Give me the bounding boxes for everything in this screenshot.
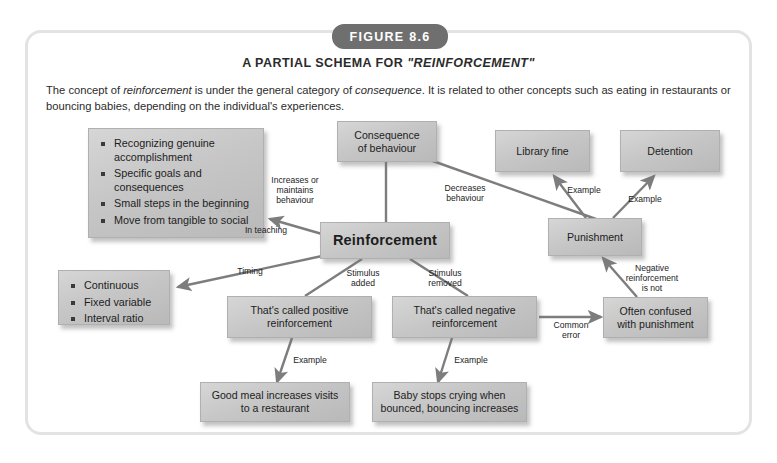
concept-map-diagram: Recognizing genuine accomplishment Speci… xyxy=(0,0,777,463)
edge-label-example-library: Example xyxy=(563,185,605,195)
edge-label-common-error: Common error xyxy=(544,320,598,340)
figure-badge: FIGURE 8.6 xyxy=(332,24,448,49)
edge-label-stimulus-removed: Stimulus removed xyxy=(415,268,475,288)
edge-label-decreases: Decreases behaviour xyxy=(432,183,498,203)
edge-label-stimulus-added: Stimulus added xyxy=(336,268,390,288)
node-positive-reinforcement[interactable]: That's called positive reinforcement xyxy=(227,296,372,338)
node-detention[interactable]: Detention xyxy=(620,130,720,172)
edge-label-example-negative: Example xyxy=(448,355,494,365)
edge-label-in-teaching: In teaching xyxy=(234,225,298,235)
node-library-fine[interactable]: Library fine xyxy=(495,130,590,172)
node-good-meal[interactable]: Good meal increases visits to a restaura… xyxy=(200,382,350,422)
edge-label-example-detention: Example xyxy=(624,194,666,204)
node-consequence-of-behaviour[interactable]: Consequence of behaviour xyxy=(337,121,437,162)
node-reinforcement[interactable]: Reinforcement xyxy=(320,222,450,259)
node-baby-bounce[interactable]: Baby stops crying when bounced, bouncing… xyxy=(372,382,527,422)
node-teaching-tips[interactable]: Recognizing genuine accomplishment Speci… xyxy=(88,128,264,238)
node-punishment[interactable]: Punishment xyxy=(548,218,642,256)
node-schedules[interactable]: Continuous Fixed variable Interval ratio xyxy=(58,270,170,325)
edge-label-increases-maintains: Increases or maintains behaviour xyxy=(256,175,334,205)
node-negative-reinforcement[interactable]: That's called negative reinforcement xyxy=(392,296,537,338)
bullet-item: Interval ratio xyxy=(71,312,159,326)
edge-label-negative-is-not: Negative reinforcement is not xyxy=(614,263,690,293)
bullet-item: Recognizing genuine accomplishment xyxy=(101,137,253,164)
bullet-item: Fixed variable xyxy=(71,296,159,310)
bullet-item: Specific goals and consequences xyxy=(101,167,253,194)
edge-label-example-positive: Example xyxy=(287,355,333,365)
edge-label-timing: Timing xyxy=(228,266,272,276)
bullet-item: Continuous xyxy=(71,279,159,293)
node-often-confused[interactable]: Often confused with punishment xyxy=(603,297,708,338)
edge-punishment-libraryfine xyxy=(554,176,586,218)
